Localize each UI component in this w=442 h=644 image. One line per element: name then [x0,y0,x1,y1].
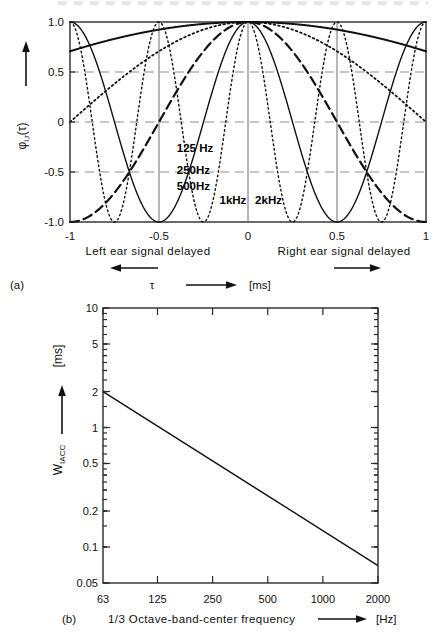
panel-b-ylabel-unit: [ms] [51,345,65,368]
panel-a-yaxis-arrow-icon [22,41,30,86]
panel-a-curve-label: 2kHz [255,194,282,206]
panel-a-ytick-label: -0.5 [44,166,64,178]
svg-text:φl,r(τ): φl,r(τ) [15,122,31,149]
panel-a-ytick-label: 0 [58,116,64,128]
panel-b-ytick-label: 5 [92,338,98,350]
panel-b-tag: (b) [62,613,76,625]
panel-a-xtick-label: -1 [65,230,75,242]
tau-axis-arrow-icon [186,281,237,288]
panel-b-minor-ticks [103,308,378,583]
panel-a-left-caption: Left ear signal delayed [86,245,211,257]
panel-a-curve-label: 125 Hz [177,142,214,154]
panel-b-data-line-group [103,392,378,566]
panel-b-xaxis-arrow-icon [318,615,367,622]
panel-a-ytick-label: 1.0 [48,16,64,28]
panel-a-xtick-labels: -1-0.500.51 [65,230,429,242]
panel-a-xtick-label: 0 [245,230,251,242]
panel-b-ylabel: W [51,463,65,475]
figure-container: φl,r(τ) 1.00.50-0.5-1.0 -1-0.500.51 [0,0,442,644]
panel-a-ytick-label: 0.5 [48,66,64,78]
panel-b-plot-frame [103,308,378,583]
panel-b-xtick-label: 2000 [366,593,390,605]
panel-b-ytick-label: 0.2 [83,505,98,517]
panel-b-ytick-label: 2 [92,386,98,398]
panel-b-ytick-label: 0.05 [77,577,98,589]
panel-b-chart: WIACC [ms] 105210.50.20.10.05 6312525050… [0,294,442,644]
cropped-text-artifact [58,1,428,5]
panel-b-ytick-label: 1 [92,422,98,434]
panel-b-yaxis-arrow-icon [58,385,66,434]
panel-a-right-caption: Right ear signal delayed [278,245,411,257]
panel-a-ylabel-arg: (τ) [15,122,29,135]
panel-a-xlabel-symbol: τ [150,279,155,291]
svg-text:WIACC: WIACC [51,445,67,476]
panel-b-xtick-labels: 6312525050010002000 [97,308,390,605]
panel-b-ytick-label: 10 [86,302,98,314]
panel-a-xtick-label: 0.5 [329,230,345,242]
panel-b-ylabel-sub: IACC [58,445,67,464]
panel-a-xlabel-unit: [ms] [249,279,271,291]
panel-b-xlabel-unit: [Hz] [376,613,396,625]
right-delay-arrow-icon [334,264,381,271]
panel-a-curve-label: 250Hz [177,164,210,176]
panel-b-ytick-labels: 105210.50.20.10.05 [77,302,378,589]
panel-b-xtick-label: 500 [259,593,277,605]
panel-a-xtick-label: -0.5 [149,230,169,242]
left-delay-arrow-icon [110,264,158,271]
panel-a-curve-label: 1kHz [220,194,247,206]
panel-b-xtick-label: 1000 [311,593,335,605]
panel-b-xtick-label: 250 [203,593,221,605]
panel-a-tag: (a) [10,279,24,291]
panel-b-xlabel: 1/3 Octave-band-center frequency [108,613,295,625]
panel-b-ylabel-group: WIACC [ms] [51,345,67,476]
panel-a-ylabel-group: φl,r(τ) [15,41,31,150]
panel-b-data-line [103,392,378,566]
panel-b-xtick-label: 63 [97,593,109,605]
panel-b-xtick-label: 125 [148,593,166,605]
panel-a-xtick-label: 1 [423,230,429,242]
panel-a-chart: φl,r(τ) 1.00.50-0.5-1.0 -1-0.500.51 [0,8,442,298]
panel-b-ytick-label: 0.1 [83,541,98,553]
panel-a-curve-label: 500Hz [177,180,210,192]
panel-b-ytick-label: 0.5 [83,457,98,469]
panel-a-ytick-label: -1.0 [44,216,64,228]
